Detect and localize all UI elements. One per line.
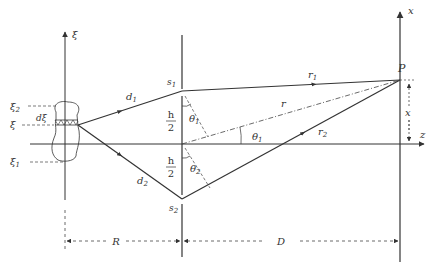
s1-label: s1 xyxy=(167,77,176,89)
z-axis: z xyxy=(30,129,426,144)
slit-to-point-paths: r1 r2 r xyxy=(182,69,400,199)
xi2-label: ξ2 xyxy=(10,101,21,114)
extended-source xyxy=(52,101,79,161)
h-half-upper-numerator: h xyxy=(168,109,175,120)
theta1-axis-label: θ1 xyxy=(252,131,263,144)
xi-axis-label: ξ xyxy=(72,29,78,40)
r2-label: r2 xyxy=(318,126,328,139)
d-distance-label: D xyxy=(276,236,285,247)
xi-axis: ξ xyxy=(65,29,78,250)
r1-label: r1 xyxy=(308,69,317,82)
x-axis-label: x xyxy=(408,5,414,16)
point-p-label: P xyxy=(397,62,406,75)
dimensions: R D xyxy=(67,236,398,247)
r-distance-label: R xyxy=(111,236,120,247)
theta1-slit-label: θ1 xyxy=(189,113,200,126)
x-offset-label: x xyxy=(405,107,411,118)
h-half-lower-numerator: h xyxy=(168,155,175,166)
z-axis-label: z xyxy=(419,129,426,140)
d2-label: d2 xyxy=(137,175,148,188)
angles: θ1 θ1 θ2 xyxy=(182,96,263,188)
observation-screen: x P x xyxy=(397,5,414,262)
s2-label: s2 xyxy=(169,203,179,215)
source-to-slit-paths: d1 d2 xyxy=(78,91,182,199)
h-half-upper-denominator: 2 xyxy=(168,122,174,133)
d-xi-label: dξ xyxy=(36,113,48,123)
slit-screen: s1 s2 h 2 h 2 xyxy=(166,35,182,257)
d1-label: d1 xyxy=(126,91,137,104)
xi1-label: ξ1 xyxy=(10,156,20,169)
theta2-label: θ2 xyxy=(190,163,201,176)
r-label: r xyxy=(281,98,287,109)
h-half-lower-denominator: 2 xyxy=(168,168,174,179)
xi-label: ξ xyxy=(10,119,16,130)
double-slit-diagram: z ξ ξ2 ξ ξ1 dξ s1 s2 h 2 h 2 xyxy=(0,0,436,270)
